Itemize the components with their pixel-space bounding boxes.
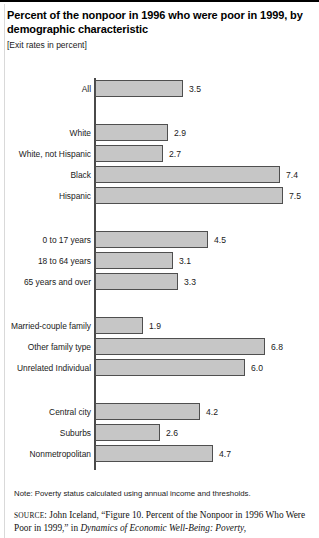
bar-category-label: Black <box>0 170 91 180</box>
bar-row: Central city4.2 <box>0 403 319 420</box>
bar-value-label: 1.9 <box>149 321 161 331</box>
bar-category-label: 65 years and over <box>0 277 91 287</box>
bar-value-label: 7.5 <box>289 191 301 201</box>
bar-value-label: 6.8 <box>271 342 283 352</box>
bar-value-label: 3.5 <box>189 84 201 94</box>
bar <box>95 445 213 462</box>
bar-category-label: Suburbs <box>0 428 91 438</box>
bar-category-label: White, not Hispanic <box>0 149 91 159</box>
bar-row: 0 to 17 years4.5 <box>0 231 319 248</box>
bar-value-label: 4.7 <box>219 449 231 459</box>
bar-value-label: 4.5 <box>214 235 226 245</box>
bar-category-label: Nonmetropolitan <box>0 449 91 459</box>
figure-source: SOURCE: John Iceland, “Figure 10. Percen… <box>14 509 310 534</box>
source-label: SOURCE <box>14 511 44 520</box>
bar <box>95 124 168 141</box>
bar-chart: All3.5White2.9White, not Hispanic2.7Blac… <box>0 76 319 482</box>
bar-row: All3.5 <box>0 80 319 97</box>
bar-value-label: 3.3 <box>184 277 196 287</box>
bar-value-label: 7.4 <box>286 170 298 180</box>
bar <box>95 252 173 269</box>
bar-row: White2.9 <box>0 124 319 141</box>
bar-row: Nonmetropolitan4.7 <box>0 445 319 462</box>
bar-value-label: 2.9 <box>174 128 186 138</box>
figure-page: Percent of the nonpoor in 1996 who were … <box>0 0 319 538</box>
figure-title: Percent of the nonpoor in 1996 who were … <box>7 8 307 36</box>
bar <box>95 273 178 290</box>
bar-row: White, not Hispanic2.7 <box>0 145 319 162</box>
bar-row: Suburbs2.6 <box>0 424 319 441</box>
bar-row: Hispanic7.5 <box>0 187 319 204</box>
figure-note: Note: Poverty status calculated using an… <box>14 489 309 499</box>
bar-category-label: Central city <box>0 407 91 417</box>
bar-row: 65 years and over3.3 <box>0 273 319 290</box>
bar <box>95 187 283 204</box>
bar <box>95 424 160 441</box>
bar-category-label: Unrelated Individual <box>0 363 91 373</box>
bar-row: Unrelated Individual6.0 <box>0 359 319 376</box>
source-publication-title: Dynamics of Economic Well-Being: Poverty… <box>80 523 246 533</box>
bar-category-label: Married-couple family <box>0 321 91 331</box>
bar <box>95 403 200 420</box>
bar-category-label: White <box>0 128 91 138</box>
bar-value-label: 3.1 <box>179 256 191 266</box>
figure-subtitle: [Exit rates in percent] <box>7 40 87 51</box>
bar-row: Married-couple family1.9 <box>0 317 319 334</box>
bar-category-label: 0 to 17 years <box>0 235 91 245</box>
bar-category-label: All <box>0 84 91 94</box>
bar <box>95 166 280 183</box>
bar <box>95 338 265 355</box>
bar <box>95 317 143 334</box>
bar-row: Black7.4 <box>0 166 319 183</box>
bar-category-label: Other family type <box>0 342 91 352</box>
bar-value-label: 2.6 <box>166 428 178 438</box>
bar <box>95 145 163 162</box>
bar-category-label: Hispanic <box>0 191 91 201</box>
bar <box>95 359 245 376</box>
bar <box>95 231 208 248</box>
bar-row: 18 to 64 years3.1 <box>0 252 319 269</box>
bar-category-label: 18 to 64 years <box>0 256 91 266</box>
bar-row: Other family type6.8 <box>0 338 319 355</box>
bar <box>95 80 183 97</box>
bar-value-label: 2.7 <box>169 149 181 159</box>
bar-value-label: 6.0 <box>251 363 263 373</box>
bar-value-label: 4.2 <box>206 407 218 417</box>
